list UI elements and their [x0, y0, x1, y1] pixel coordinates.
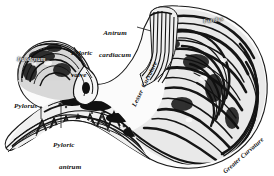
pyloric-valve-line2: valve: [71, 72, 93, 79]
pyloric-antrum-line2: antrum: [53, 164, 81, 171]
pyloric-antrum-line1: Pyloric: [53, 142, 81, 149]
label-pylorus: Pylorus: [14, 103, 37, 110]
label-pyloric-antrum: Pyloric antrum: [53, 128, 81, 176]
antrum-cardiacum-line1: Antrum: [99, 30, 131, 37]
pyloric-valve-line1: Pyloric: [71, 50, 93, 57]
antrum-cardiacum-line2: cardiacum: [99, 52, 131, 59]
anatomical-figure: Antrum cardiacum Pyloric valve Duodenum …: [0, 0, 274, 176]
label-duodenum: Duodenum: [17, 56, 45, 62]
label-pyloric-valve: Pyloric valve: [71, 36, 93, 94]
label-antrum-cardiacum: Antrum cardiacum: [99, 16, 131, 74]
